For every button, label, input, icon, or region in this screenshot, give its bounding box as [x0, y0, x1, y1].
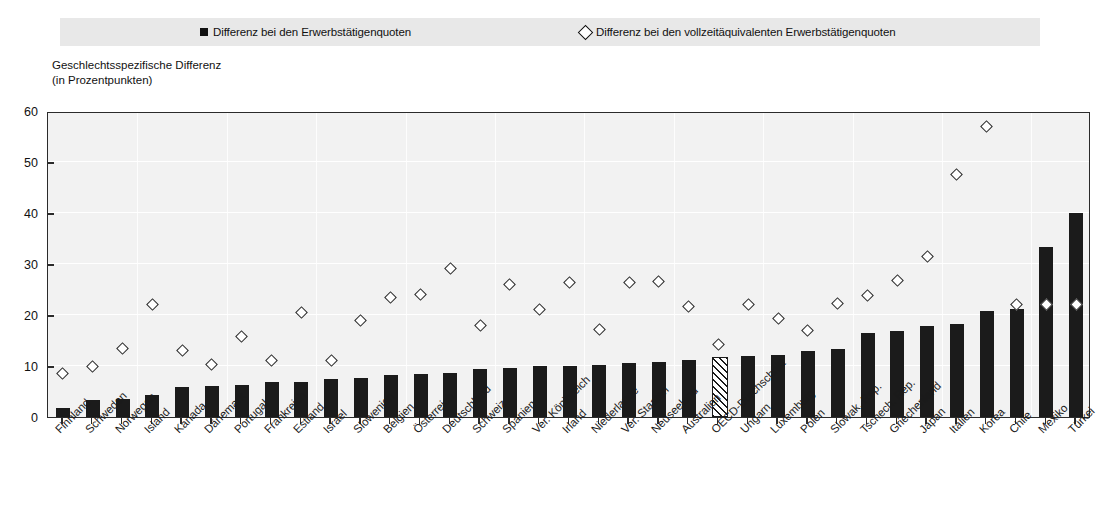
marker-finnland	[57, 367, 70, 380]
marker-ungarn	[742, 298, 755, 311]
y-axis-label-60: 60	[4, 106, 38, 118]
marker-tschech-rep-	[861, 289, 874, 302]
bar-niederlande	[592, 365, 606, 417]
marker-oecd-durchschnitt	[712, 338, 725, 351]
plot-container: 0102030405060 FinnlandSchwedenNorwegenIs…	[0, 0, 1100, 527]
gridline-y-20	[48, 314, 1089, 315]
marker-irland	[563, 277, 576, 290]
marker-australien	[682, 300, 695, 313]
marker-korea	[980, 120, 993, 133]
y-axis-tick-10	[47, 366, 54, 368]
gridline-x-30	[942, 113, 943, 417]
y-axis-label-0: 0	[4, 412, 38, 424]
y-axis-label-40: 40	[4, 208, 38, 220]
marker-niederlande	[593, 323, 606, 336]
bar-slowak-rep-	[831, 349, 845, 417]
gridline-x-18	[584, 113, 585, 417]
gridline-x-33	[1031, 113, 1032, 417]
marker-slowenien	[355, 314, 368, 327]
gridline-y-40	[48, 212, 1089, 213]
gridline-x-9	[316, 113, 317, 417]
plot-area	[47, 112, 1090, 418]
y-axis-label-10: 10	[4, 361, 38, 373]
marker-slowak-rep-	[831, 297, 844, 310]
gridline-x-3	[137, 113, 138, 417]
marker-griechenland	[891, 274, 904, 287]
marker-polen	[802, 324, 815, 337]
gridline-x-6	[227, 113, 228, 417]
marker-ver-staaten	[623, 277, 636, 290]
y-axis-label-30: 30	[4, 259, 38, 271]
y-axis-tick-40	[47, 213, 54, 215]
bar-t-rkei	[1069, 213, 1083, 418]
y-axis-tick-50	[47, 162, 54, 164]
y-axis-label-20: 20	[4, 310, 38, 322]
marker-japan	[921, 251, 934, 264]
marker-schweden	[86, 360, 99, 373]
marker-norwegen	[116, 342, 129, 355]
bar-mexiko	[1039, 247, 1053, 417]
marker-d-nemark	[206, 359, 219, 372]
marker-portugal	[235, 330, 248, 343]
marker-island	[146, 298, 159, 311]
bar--sterreich	[414, 374, 428, 417]
marker-belgien	[384, 291, 397, 304]
marker-italien	[951, 168, 964, 181]
marker-spanien	[504, 278, 517, 291]
bar-italien	[950, 324, 964, 417]
marker-kanada	[176, 344, 189, 357]
gridline-x-15	[495, 113, 496, 417]
marker--sterreich	[414, 288, 427, 301]
gridline-x-12	[406, 113, 407, 417]
marker-estland	[295, 307, 308, 320]
chart-page: Differenz bei den Erwerbstätigenquoten D…	[0, 0, 1100, 527]
gridline-x-21	[674, 113, 675, 417]
bar-spanien	[503, 368, 517, 417]
y-axis-tick-20	[47, 315, 54, 317]
y-axis-label-50: 50	[4, 157, 38, 169]
bar-ver-k-nigreich	[533, 366, 547, 417]
gridline-y-50	[48, 161, 1089, 162]
marker-schweiz	[474, 319, 487, 332]
bar-chile	[1010, 309, 1024, 417]
gridline-y-30	[48, 263, 1089, 264]
y-axis-tick-30	[47, 264, 54, 266]
marker-neuseeland	[653, 275, 666, 288]
bar-korea	[980, 311, 994, 417]
gridline-x-27	[853, 113, 854, 417]
